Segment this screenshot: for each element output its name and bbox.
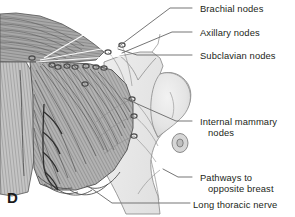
label-brachial-nodes: Brachial nodes [200, 3, 263, 14]
label-axillary-nodes-line-1: Axillary nodes [200, 27, 260, 38]
label-internal-mammary-nodes: Internal mammarynodes [200, 116, 277, 139]
anatomy-figure-panel: Brachial nodesAxillary nodesSubclavian n… [0, 0, 295, 217]
label-internal-mammary-nodes-line-2: nodes [200, 127, 277, 138]
label-long-thoracic-nerve-line-1: Long thoracic nerve [193, 199, 277, 210]
panel-letter: D [7, 189, 18, 206]
label-internal-mammary-nodes-line-1: Internal mammary [200, 116, 277, 127]
label-brachial-nodes-line-1: Brachial nodes [200, 3, 263, 14]
label-subclavian-nodes: Subclavian nodes [200, 50, 276, 61]
label-pathways-to-opposite-breast: Pathways toopposite breast [200, 172, 274, 195]
label-long-thoracic-nerve: Long thoracic nerve [193, 199, 277, 210]
label-axillary-nodes: Axillary nodes [200, 27, 260, 38]
label-pathways-to-opposite-breast-line-1: Pathways to [200, 172, 274, 183]
nipple-areola [172, 134, 188, 153]
label-subclavian-nodes-line-1: Subclavian nodes [200, 50, 276, 61]
label-pathways-to-opposite-breast-line-2: opposite breast [200, 183, 274, 194]
